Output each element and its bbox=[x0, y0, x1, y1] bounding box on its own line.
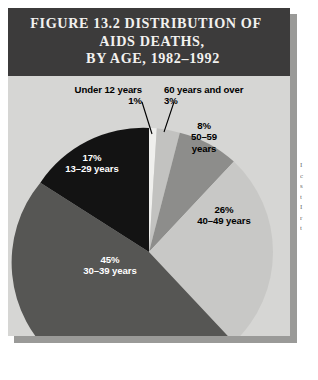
page-margin-text: I c s t I r t bbox=[300, 160, 318, 290]
figure-title-line-3: BY AGE, 1982–1992 bbox=[8, 50, 290, 68]
page-margin-text-line: I bbox=[300, 202, 318, 213]
pie-label-50-59-years-percent: 8% bbox=[176, 120, 232, 131]
pie-label-30-39-years: 45% 30–39 years bbox=[48, 254, 172, 277]
panel-shadow-right bbox=[290, 14, 297, 342]
pie-label-50-59-years: 8% 50–59 years bbox=[176, 120, 232, 154]
pie-label-30-39-years-percent: 45% bbox=[48, 254, 172, 265]
figure-title-bar: FIGURE 13.2 DISTRIBUTION OF AIDS DEATHS,… bbox=[8, 8, 290, 76]
page-margin-text-line: c bbox=[300, 171, 318, 182]
pie-label-13-29-years-category: 13–29 years bbox=[30, 163, 154, 174]
figure-title-line-1: FIGURE 13.2 DISTRIBUTION OF bbox=[8, 15, 290, 33]
page-margin-text-line: t bbox=[300, 223, 318, 234]
pie-label-under-12-years-category: Under 12 years bbox=[38, 84, 142, 95]
figure-title-line-2: AIDS DEATHS, bbox=[8, 33, 290, 51]
pie-label-60-years-and-over-category: 60 years and over bbox=[164, 84, 284, 95]
pie-label-40-49-years-percent: 26% bbox=[172, 204, 276, 215]
panel-shadow-bottom bbox=[14, 336, 297, 343]
pie-label-13-29-years: 17% 13–29 years bbox=[30, 152, 154, 175]
pie-label-50-59-years-category-line2: years bbox=[176, 143, 232, 154]
page-margin-text-line: s bbox=[300, 181, 318, 192]
pie-label-40-49-years: 26% 40–49 years bbox=[172, 204, 276, 227]
pie-chart-area: Under 12 years 1% 60 years and over 3% 8… bbox=[8, 76, 290, 336]
page-margin-text-line: I bbox=[300, 160, 318, 171]
pie-label-60-years-and-over: 60 years and over 3% bbox=[164, 84, 284, 107]
pie-label-40-49-years-category: 40–49 years bbox=[172, 215, 276, 226]
pie-label-30-39-years-category: 30–39 years bbox=[48, 265, 172, 276]
page-margin-text-line: t bbox=[300, 192, 318, 203]
figure-panel: FIGURE 13.2 DISTRIBUTION OF AIDS DEATHS,… bbox=[8, 8, 290, 336]
pie-label-50-59-years-category-line1: 50–59 bbox=[176, 131, 232, 142]
pie-label-under-12-years-percent: 1% bbox=[38, 95, 142, 106]
pie-label-13-29-years-percent: 17% bbox=[30, 152, 154, 163]
pie-label-60-years-and-over-percent: 3% bbox=[164, 95, 284, 106]
pie-label-under-12-years: Under 12 years 1% bbox=[38, 84, 142, 107]
page-margin-text-line: r bbox=[300, 213, 318, 224]
